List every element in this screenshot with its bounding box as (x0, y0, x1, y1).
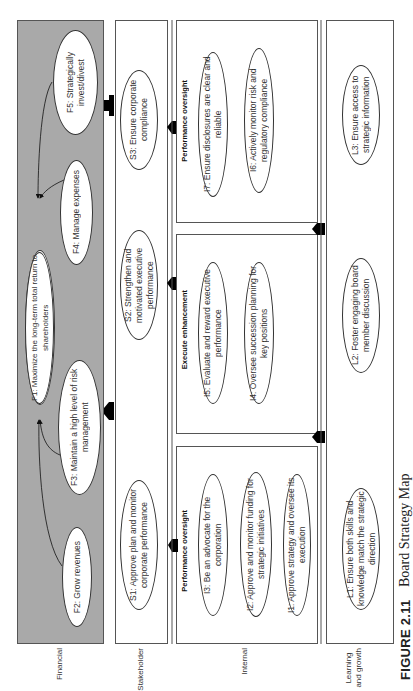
perspective-label-stakeholder: Stakeholder (136, 648, 145, 691)
node-i4: I4: Oversee succession planning for key … (244, 262, 274, 404)
node-i2: I2: Approve and monitor funding for stra… (240, 472, 272, 617)
group-label: Performance oversight (180, 80, 189, 162)
group-label: Performance oversight (180, 510, 189, 592)
node-i1: I1: Approve strategy and oversee its exe… (283, 474, 311, 616)
group-label: Execute enhancement (180, 290, 189, 369)
node-f3: F3: Maintain a high level of risk manage… (58, 360, 101, 495)
node-i6: I6: Actively monitor risk and regulatory… (244, 48, 274, 193)
node-f2: F2: Grow revenues (62, 527, 92, 627)
node-i7: I7: Ensure disclosures are clear and rel… (198, 52, 228, 197)
perspective-label-learning-growth: Learning and growth (344, 648, 364, 688)
node-f1: F1: Maximize the long-term total return … (25, 252, 54, 404)
node-s2: S2: Strengthen and motivated executive p… (120, 230, 158, 340)
node-s1: S1: Approve plan and monitor corporate p… (120, 480, 158, 610)
figure-title: Board Strategy Map (397, 474, 413, 588)
figure-number: FIGURE 2.11 (398, 599, 413, 680)
node-s3: S3: Ensure corporate compliance (120, 70, 158, 170)
node-f5: F5: Strategically invest/divest (53, 30, 98, 135)
figure-caption: FIGURE 2.11 Board Strategy Map (397, 440, 413, 680)
node-l3: L3: Ensure access to strategic informati… (342, 65, 380, 165)
node-l2: L2: Foster engaging board member discuss… (342, 258, 380, 373)
node-l1: L1: Ensure both skills and knowledge mat… (342, 488, 380, 610)
perspective-label-financial: Financial (55, 648, 64, 680)
node-i3: I3: Be an advocate for the corporation (198, 474, 228, 616)
node-i5: I5: Evaluate and reward executive perfor… (198, 262, 228, 404)
block-arrow-icon (104, 95, 114, 116)
node-f4: F4: Manage expenses (60, 160, 93, 265)
perspective-label-internal: Internal (240, 648, 249, 675)
